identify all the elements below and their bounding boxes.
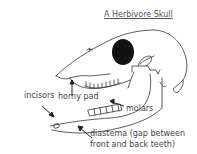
- eye-socket: [112, 39, 134, 65]
- incisor-teeth: [54, 123, 60, 128]
- label-diastema-line2: front and back teeth): [90, 140, 175, 150]
- label-diastema-line1: diastema (gap between: [90, 129, 185, 139]
- label-incisors: incisors: [24, 91, 54, 101]
- label-molars: molars: [126, 104, 153, 114]
- label-horny-pad: horny pad: [58, 92, 99, 102]
- herbivore-skull-diagram: A Herbivore Skull: [0, 0, 197, 154]
